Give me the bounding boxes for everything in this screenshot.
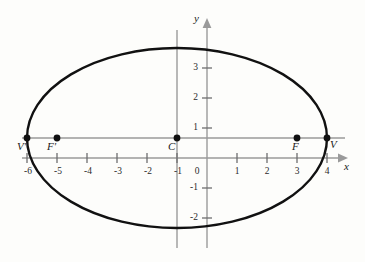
x-tick-label--6: -6 [19, 166, 37, 176]
x-tick-label-1: 1 [230, 166, 244, 176]
x-tick-label--3: -3 [109, 166, 127, 176]
point-label-f: F [292, 140, 299, 152]
point-label-f-prime: F' [47, 140, 56, 152]
y-axis-label: y [194, 12, 199, 24]
point-label-center: C [168, 140, 175, 152]
x-tick-label-4: 4 [320, 166, 334, 176]
point-label-v: V [330, 138, 337, 150]
y-tick-label--2: -2 [180, 212, 198, 222]
y-tick-label-1: 1 [182, 122, 198, 132]
x-tick-label-2: 2 [260, 166, 274, 176]
x-tick-label-0: 0 [190, 166, 204, 176]
x-tick-label--1: -1 [169, 166, 187, 176]
y-axis-arrowhead [203, 18, 212, 28]
point-label-v-prime: V' [17, 140, 26, 152]
x-axis-label: x [344, 160, 349, 172]
y-tick-label-2: 2 [182, 92, 198, 102]
x-tick-label--5: -5 [49, 166, 67, 176]
x-tick-label--2: -2 [139, 166, 157, 176]
y-tick-label-3: 3 [182, 62, 198, 72]
ellipse-diagram: x y -6 -5 -4 -3 -2 -1 0 1 2 3 4 3 2 1 -1… [0, 0, 365, 262]
x-tick-label-3: 3 [290, 166, 304, 176]
x-tick-label--4: -4 [79, 166, 97, 176]
y-tick-label--1: -1 [180, 182, 198, 192]
